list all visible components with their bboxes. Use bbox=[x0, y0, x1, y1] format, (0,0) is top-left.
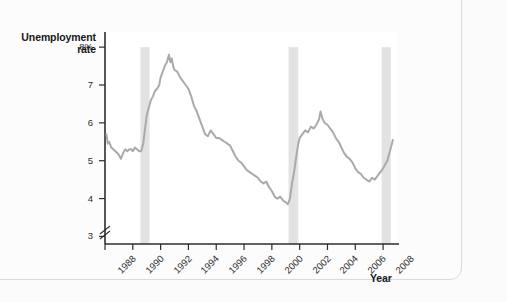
y-axis-tick-label: 4 bbox=[57, 193, 93, 204]
y-axis-tick-label: 5 bbox=[57, 155, 93, 166]
x-axis-title: Year bbox=[370, 272, 392, 284]
y-axis-tick-label: 7 bbox=[57, 79, 93, 90]
y-axis-tick-label: 8% bbox=[57, 41, 93, 52]
recession-2007-2009 bbox=[382, 47, 391, 244]
recession-2001 bbox=[289, 47, 299, 244]
y-axis-ticks-group bbox=[99, 47, 105, 236]
x-axis-ticks-group bbox=[105, 244, 383, 250]
y-axis-tick-label: 6 bbox=[57, 117, 93, 128]
unemployment-rate-chart: Unemployment rate 8%76543 19881990199219… bbox=[0, 0, 507, 302]
y-axis-tick-label: 3 bbox=[57, 230, 93, 241]
